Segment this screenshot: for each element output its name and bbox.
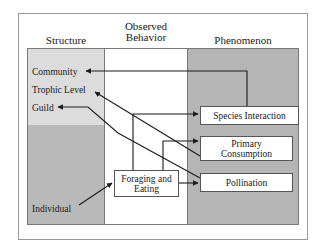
label-guild: Guild: [32, 103, 54, 113]
observed-behavior-column: [105, 48, 187, 225]
pollination-text: Pollination: [226, 178, 268, 188]
header-structure: Structure: [27, 35, 105, 46]
box-primary-consumption: Primary Consumption: [200, 136, 293, 161]
header-phenomenon: Phenomenon: [187, 35, 299, 46]
header-behavior: Behavior: [105, 32, 187, 43]
box-foraging-and-eating: Foraging and Eating: [114, 170, 179, 197]
primary-consumption-line1: Primary: [231, 139, 262, 149]
species-interaction-text: Species Interaction: [213, 111, 286, 121]
primary-consumption-line2: Consumption: [221, 149, 272, 159]
box-pollination: Pollination: [200, 173, 293, 192]
foraging-line2: Eating: [134, 184, 159, 194]
label-individual: Individual: [32, 204, 71, 214]
box-species-interaction: Species Interaction: [200, 106, 299, 125]
label-community: Community: [32, 67, 77, 77]
foraging-line1: Foraging and: [121, 174, 171, 184]
label-trophic-level: Trophic Level: [32, 85, 86, 95]
